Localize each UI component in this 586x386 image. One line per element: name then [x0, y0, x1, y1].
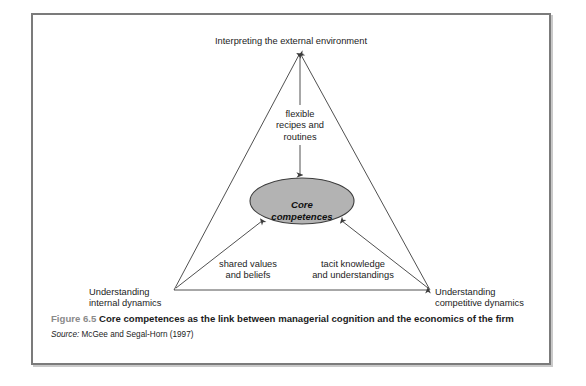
triangle-diagram-svg: [33, 15, 549, 305]
apex-label: Interpreting the external environment: [215, 36, 367, 47]
competitive-dynamics-line-1: Understanding: [435, 287, 524, 298]
apex-label-text: Interpreting the external environment: [215, 36, 367, 46]
flexible-recipes-line-2: recipes and: [276, 120, 324, 131]
internal-dynamics-label: Understanding internal dynamics: [89, 287, 161, 310]
figure-frame: Interpreting the external environment fl…: [31, 13, 551, 365]
shared-values-line-2: and beliefs: [219, 270, 277, 281]
flexible-recipes-line-1: flexible: [276, 109, 324, 120]
diagram-canvas: Interpreting the external environment fl…: [33, 15, 549, 305]
flexible-recipes-label: flexible recipes and routines: [276, 109, 324, 143]
shared-values-label: shared values and beliefs: [219, 259, 277, 282]
competitive-dynamics-line-2: competitive dynamics: [435, 298, 524, 309]
caption-source-text: McGee and Segal-Horn (1997): [79, 330, 193, 339]
tacit-knowledge-label: tacit knowledge and understandings: [312, 259, 394, 282]
tacit-knowledge-line-1: tacit knowledge: [312, 259, 394, 270]
internal-dynamics-line-1: Understanding: [89, 287, 161, 298]
caption-source-label: Source:: [51, 330, 79, 339]
flexible-recipes-line-3: routines: [276, 132, 324, 143]
triangle-right-edge: [301, 55, 430, 291]
caption-figure-number: Figure 6.5: [51, 313, 96, 324]
internal-dynamics-line-2: internal dynamics: [89, 298, 161, 309]
triangle-left-edge: [174, 55, 299, 291]
competitive-dynamics-label: Understanding competitive dynamics: [435, 287, 524, 310]
caption-source-line: Source: McGee and Segal-Horn (1997): [51, 330, 535, 340]
figure-caption: Figure 6.5 Core competences as the link …: [51, 312, 535, 340]
tacit-knowledge-line-2: and understandings: [312, 270, 394, 281]
core-competences-ellipse: [250, 178, 354, 224]
shared-values-line-1: shared values: [219, 259, 277, 270]
caption-title-text: Core competences as the link between man…: [96, 313, 513, 324]
caption-title-line: Figure 6.5 Core competences as the link …: [51, 312, 535, 326]
